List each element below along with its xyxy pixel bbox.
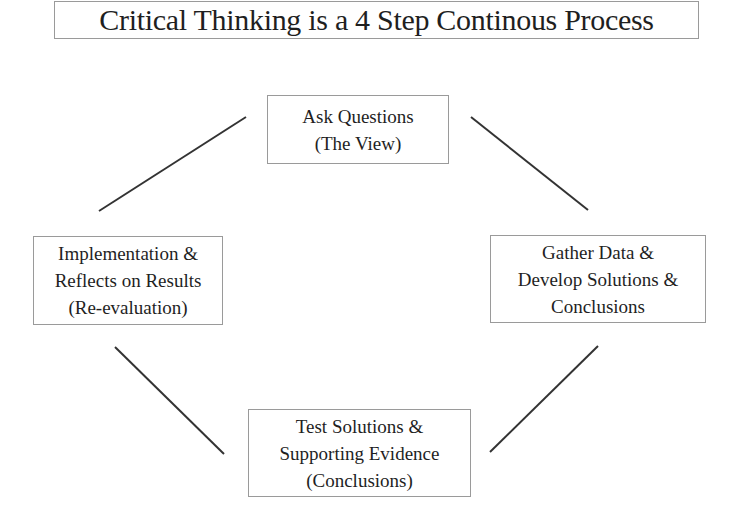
node-line: (The View): [315, 130, 402, 157]
node-line: Reflects on Results: [55, 267, 202, 294]
node-line: Test Solutions &: [296, 413, 423, 440]
node-ask-questions: Ask Questions (The View): [267, 95, 449, 164]
node-line: Ask Questions: [302, 103, 413, 130]
node-line: Implementation &: [58, 240, 198, 267]
node-line: (Conclusions): [306, 467, 413, 494]
connector-right-to-bottom: [490, 346, 598, 452]
node-implementation: Implementation & Reflects on Results (Re…: [33, 236, 223, 325]
node-line: Conclusions: [551, 293, 645, 320]
node-line: Develop Solutions &: [518, 266, 678, 293]
node-test-solutions: Test Solutions & Supporting Evidence (Co…: [248, 409, 471, 497]
connector-top-to-right: [471, 117, 588, 210]
node-line: (Re-evaluation): [68, 294, 187, 321]
connector-bottom-to-left: [115, 347, 224, 454]
node-gather-data: Gather Data & Develop Solutions & Conclu…: [490, 235, 706, 323]
connector-left-to-top: [99, 117, 246, 211]
node-line: Gather Data &: [542, 239, 654, 266]
node-line: Supporting Evidence: [280, 440, 440, 467]
